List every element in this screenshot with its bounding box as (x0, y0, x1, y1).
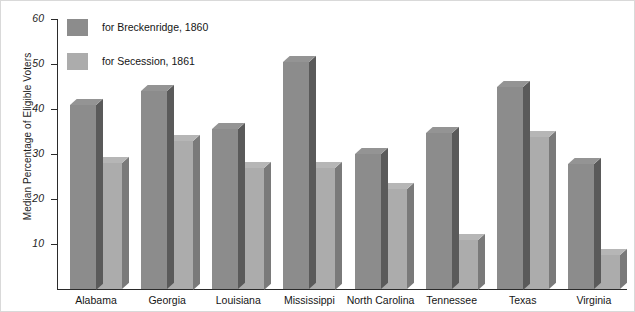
y-tick-10 (51, 244, 58, 245)
y-tick-60 (51, 19, 58, 20)
bar-side-face (594, 158, 601, 289)
bar-side-face (309, 55, 316, 289)
bar (283, 62, 309, 289)
bar-side-face (407, 182, 414, 289)
bar-side-face (620, 249, 627, 289)
y-tick-label-10: 10 (4, 237, 44, 249)
bar-side-face (381, 148, 388, 289)
bar-side-face (452, 127, 459, 289)
x-axis-line (57, 289, 627, 290)
plot-area (58, 19, 627, 289)
bar-face (497, 87, 523, 290)
bar (355, 154, 381, 289)
bar-face (568, 164, 594, 289)
bar-side-face (122, 157, 129, 289)
bar-side-face (193, 134, 200, 289)
x-axis-label-louisiana: Louisiana (216, 294, 261, 306)
bar (426, 133, 452, 289)
y-tick-label-40: 40 (4, 102, 44, 114)
y-tick-30 (51, 154, 58, 155)
bar-group (426, 19, 478, 289)
bar-group (70, 19, 122, 289)
bar (497, 87, 523, 290)
x-axis-label-mississippi: Mississippi (284, 294, 335, 306)
bar (141, 91, 167, 289)
bar-group (568, 19, 620, 289)
bar-face (141, 91, 167, 289)
bar-face (426, 133, 452, 289)
bar-group (355, 19, 407, 289)
bar (568, 164, 594, 289)
bar-side-face (167, 85, 174, 289)
y-tick-label-50: 50 (4, 57, 44, 69)
bar-side-face (549, 131, 556, 289)
bar (212, 129, 238, 289)
bar-face (355, 154, 381, 289)
bar-side-face (335, 161, 342, 289)
bar-face (70, 105, 96, 290)
bar-group (497, 19, 549, 289)
y-tick-20 (51, 199, 58, 200)
bar-group (283, 19, 335, 289)
y-tick-50 (51, 64, 58, 65)
bar (70, 105, 96, 290)
bar-side-face (523, 80, 530, 289)
bar-side-face (264, 161, 271, 289)
bar-chart: Median Percentage of Eligible Voters 102… (0, 0, 635, 312)
x-axis-label-north-carolina: North Carolina (347, 294, 415, 306)
y-tick-40 (51, 109, 58, 110)
y-axis-title: Median Percentage of Eligible Voters (22, 7, 33, 267)
x-axis-label-texas: Texas (509, 294, 536, 306)
x-axis-label-tennessee: Tennessee (426, 294, 477, 306)
x-axis-label-alabama: Alabama (75, 294, 116, 306)
y-tick-label-60: 60 (4, 12, 44, 24)
bar-face (283, 62, 309, 289)
bar-side-face (478, 233, 485, 289)
bar-side-face (96, 98, 103, 289)
x-axis-label-virginia: Virginia (576, 294, 611, 306)
bar-face (212, 129, 238, 289)
y-tick-label-20: 20 (4, 192, 44, 204)
x-axis-label-georgia: Georgia (148, 294, 185, 306)
bar-group (141, 19, 193, 289)
bar-side-face (238, 123, 245, 289)
y-tick-label-30: 30 (4, 147, 44, 159)
bar-group (212, 19, 264, 289)
